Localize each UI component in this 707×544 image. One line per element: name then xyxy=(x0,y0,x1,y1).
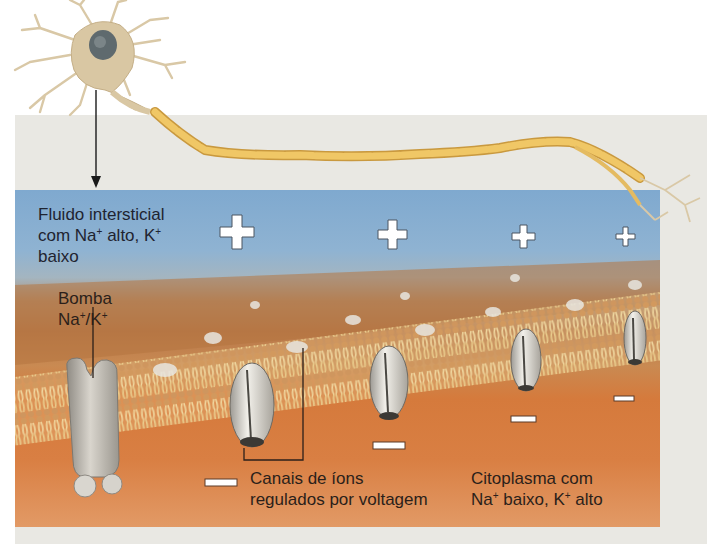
neuron-icon xyxy=(0,0,707,544)
